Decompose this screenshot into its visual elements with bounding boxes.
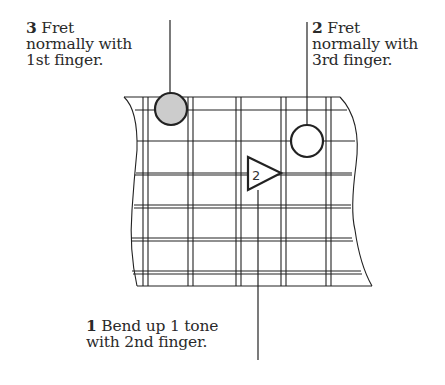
bend-triangle-label: 2 xyxy=(252,168,260,183)
filled-circle-marker xyxy=(155,93,187,125)
open-circle-marker xyxy=(291,125,323,157)
annotation-2-line3: 3rd finger. xyxy=(312,51,392,69)
fretboard-left-edge xyxy=(124,97,137,286)
annotation-1: 1 Bend up 1 tone with 2nd finger. xyxy=(86,318,218,350)
annotation-3: 3 Fret normally with 1st finger. xyxy=(26,20,132,68)
annotation-2: 2 Fret normally with 3rd finger. xyxy=(312,20,418,68)
annotation-1-line2: with 2nd finger. xyxy=(86,333,207,351)
bend-triangle-marker: 2 xyxy=(248,157,281,190)
fretboard-right-edge xyxy=(340,97,372,286)
fretboard xyxy=(124,97,372,286)
annotation-3-line3: 1st finger. xyxy=(26,51,103,69)
